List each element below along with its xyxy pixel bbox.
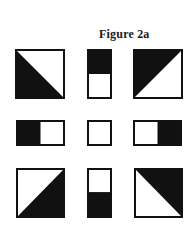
triangle-fill-icon (136, 170, 181, 216)
figure-title: Figure 2a (99, 27, 150, 42)
shape-r3c2-tall-rect-bottom-black (87, 168, 112, 218)
triangle-fill-icon (135, 51, 181, 97)
half-fill-icon (89, 51, 110, 97)
shape-r2c1-wide-rect-left-black (16, 120, 65, 146)
shape-r1c2-tall-rect-top-black (87, 49, 112, 99)
triangle-fill-icon (17, 51, 63, 97)
half-fill-icon (135, 122, 180, 144)
shape-r3c1-square-bottom-right-black-triangle (16, 168, 65, 218)
shape-r2c3-wide-rect-right-black (133, 120, 182, 146)
shape-r1c3-square-top-left-black-triangle (133, 49, 183, 99)
half-fill-icon (89, 170, 110, 216)
triangle-fill-icon (18, 170, 63, 216)
shape-r2c2-empty-square (87, 120, 112, 146)
half-fill-icon (18, 122, 63, 144)
shape-r1c1-square-bottom-left-black-triangle (15, 49, 65, 99)
shape-r3c3-square-top-right-black-triangle (134, 168, 183, 218)
